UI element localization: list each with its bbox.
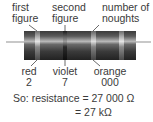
- label-first-line2: figure: [12, 13, 38, 24]
- label-violet-value: 7: [50, 77, 80, 88]
- band-fourth-tolerance: [119, 31, 124, 60]
- label-red: red 2: [16, 66, 42, 88]
- label-violet: violet 7: [50, 66, 80, 88]
- label-orange-value: 000: [92, 77, 128, 88]
- resistance-equation-line1: So: resistance = 27 000 Ω: [13, 92, 134, 104]
- pointer-first-top: [29, 25, 37, 31]
- wire-lead-right: [134, 41, 151, 43]
- resistance-equation-line2: = 27 kΩ: [75, 106, 112, 118]
- pointer-third-top: [93, 25, 99, 31]
- label-first-figure: first figure: [12, 2, 38, 24]
- label-second-figure: second figure: [52, 2, 86, 24]
- label-orange: orange 000: [92, 66, 128, 88]
- band-third-orange: [91, 31, 96, 60]
- label-number-of-noughts: number of noughts: [102, 2, 149, 24]
- wire-lead-left: [6, 41, 26, 43]
- label-second-line2: figure: [52, 13, 86, 24]
- label-red-value: 2: [16, 77, 42, 88]
- band-second-violet: [63, 31, 67, 60]
- label-third-line2: noughts: [102, 13, 149, 24]
- band-first-red: [35, 31, 40, 60]
